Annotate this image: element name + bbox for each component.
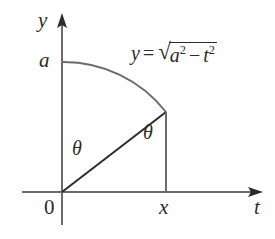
origin-label: 0 [44,197,55,218]
math-figure: y t 0 a x θ θ y = √ a2−t2 [0,0,275,239]
radius-tick-label-a: a [39,50,50,71]
radicand-term-t-exponent: 2 [209,43,215,57]
y-axis-label: y [38,10,47,31]
radicand: a2−t2 [169,42,217,67]
equation-lhs: y [131,42,140,65]
curve-equation: y = √ a2−t2 [131,42,217,67]
quarter-circle-arc [62,62,166,112]
square-root-group: √ a2−t2 [158,42,217,67]
radicand-minus-operator: − [186,44,203,66]
theta-label-origin: θ [72,138,82,158]
radical-sign-icon: √ [158,41,171,66]
diagram-canvas [0,0,275,239]
t-axis-label: t [254,197,260,218]
theta-label-vertex: θ [143,122,153,142]
radicand-term-a: a [170,44,180,66]
equation-equals: = [140,42,157,65]
x-tick-label: x [159,197,168,218]
